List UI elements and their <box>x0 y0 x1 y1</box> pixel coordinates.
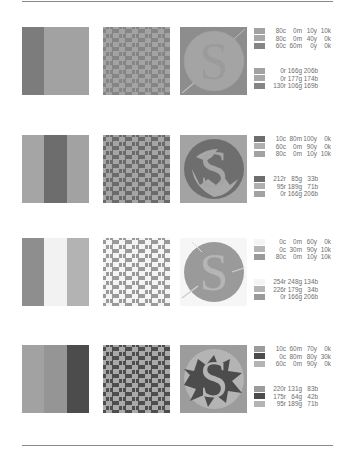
color-value-row: 0c0m60y0k <box>254 238 338 245</box>
value-b: 33b <box>302 175 318 182</box>
value-y: 10y <box>302 150 317 157</box>
value-r: 220r <box>267 385 286 392</box>
value-c: 0c <box>267 246 286 253</box>
color-scheme-row: S 0c0m60y0k0c30m90y10k80c0m10y10k254r248… <box>0 238 359 308</box>
bottom-rule <box>22 445 333 446</box>
value-y: 10y <box>302 27 317 34</box>
value-g: 64g <box>286 393 302 400</box>
s-logo-icon: S <box>180 27 247 95</box>
value-y: 90y <box>302 143 317 150</box>
stripe-swatch-panel <box>22 27 89 95</box>
color-swatch <box>254 254 265 260</box>
value-c: 0c <box>267 353 286 360</box>
color-swatch <box>254 28 265 34</box>
color-value-row: 212r85g33b <box>254 175 338 182</box>
value-r: 0r <box>267 67 286 74</box>
checker-pattern-panel <box>103 238 170 306</box>
value-r: 95r <box>267 400 286 407</box>
checker-pattern-panel <box>103 345 170 413</box>
value-b: 42b <box>302 393 318 400</box>
value-m: 0m <box>286 150 302 157</box>
stripe-swatch-panel <box>22 238 89 306</box>
value-y: 70y <box>302 345 317 352</box>
stripe-swatch-panel <box>22 135 89 203</box>
s-logo-icon: S <box>180 345 247 413</box>
checker-pattern-panel <box>103 27 170 95</box>
color-value-row: 220r131g83b <box>254 385 338 392</box>
color-scheme-row: S 10c60m70y0k0c80m80y30k60c0m90y0k220r13… <box>0 345 359 415</box>
color-swatch <box>254 143 265 149</box>
color-value-row: 60c0m90y0k <box>254 143 338 150</box>
svg-text:S: S <box>200 33 229 90</box>
value-m: 30m <box>286 246 302 253</box>
value-r: 95r <box>267 183 286 190</box>
cmyk-legend: 10c80m100y0k60c0m90y0k80c0m10y10k <box>254 135 338 158</box>
value-m: 80m <box>286 135 302 142</box>
value-r: 175r <box>267 393 286 400</box>
cmyk-legend: 0c0m60y0k0c30m90y10k80c0m10y10k <box>254 238 338 261</box>
value-b: 83b <box>302 385 318 392</box>
stripe <box>22 135 44 203</box>
stripe <box>22 27 44 95</box>
value-m: 60m <box>286 345 302 352</box>
color-value-row: 0r166g206b <box>254 190 338 197</box>
value-b: 169b <box>302 82 318 89</box>
value-r: 212r <box>267 175 286 182</box>
value-g: 166g <box>286 293 302 300</box>
color-value-row: 80c0m10y10k <box>254 27 338 34</box>
color-value-row: 60c0m90y0k <box>254 360 338 367</box>
value-c: 10c <box>267 135 286 142</box>
value-g: 106g <box>286 82 302 89</box>
value-g: 177g <box>286 75 302 82</box>
value-b: 34b <box>302 286 318 293</box>
color-value-row: 10c80m100y0k <box>254 135 338 142</box>
value-r: 254r <box>267 278 286 285</box>
color-value-row: 0r166g206b <box>254 293 338 300</box>
value-c: 60c <box>267 42 286 49</box>
color-swatch <box>254 191 265 197</box>
color-swatch <box>254 393 265 399</box>
color-value-row: 95r189g71b <box>254 400 338 407</box>
color-swatch <box>254 294 265 300</box>
value-y: 100y <box>302 135 317 142</box>
value-k: 10k <box>317 150 331 157</box>
value-m: 0m <box>286 360 302 367</box>
stripe <box>67 238 89 306</box>
rgb-legend: 220r131g83b175r64g42b95r189g71b <box>254 385 338 408</box>
color-swatch <box>254 75 265 81</box>
cmyk-legend: 10c60m70y0k0c80m80y30k60c0m90y0k <box>254 345 338 368</box>
value-m: 80m <box>286 353 302 360</box>
color-swatch <box>254 346 265 352</box>
color-swatch <box>254 353 265 359</box>
s-logo-icon: S <box>180 135 247 203</box>
color-swatch <box>254 68 265 74</box>
value-b: 174b <box>302 75 318 82</box>
value-m: 0m <box>286 27 302 34</box>
value-m: 0m <box>286 143 302 150</box>
value-k: 0k <box>317 238 331 245</box>
value-c: 10c <box>267 345 286 352</box>
value-c: 80c <box>267 253 286 260</box>
color-scheme-row: S 10c80m100y0k60c0m90y0k80c0m10y10k212r8… <box>0 135 359 205</box>
value-b: 134b <box>302 278 318 285</box>
color-swatch <box>254 83 265 89</box>
stripe <box>44 27 66 95</box>
color-value-row: 226r179g34b <box>254 286 338 293</box>
checker-pattern-panel <box>103 135 170 203</box>
value-b: 206b <box>302 190 318 197</box>
color-swatch <box>254 176 265 182</box>
value-b: 71b <box>302 400 318 407</box>
value-b: 206b <box>302 293 318 300</box>
value-y: 40y <box>302 35 317 42</box>
top-rule <box>22 1 333 2</box>
color-swatch <box>254 183 265 189</box>
value-y: 0y <box>302 42 317 49</box>
value-k: 0k <box>317 360 331 367</box>
color-value-row: 0c80m80y30k <box>254 353 338 360</box>
color-value-row: 130r106g169b <box>254 82 338 89</box>
rgb-legend: 0r166g206b0r177g174b130r106g169b <box>254 67 338 90</box>
color-value-row: 80c0m10y10k <box>254 150 338 157</box>
value-c: 80c <box>267 35 286 42</box>
stripe <box>67 27 89 95</box>
value-k: 0k <box>317 35 331 42</box>
